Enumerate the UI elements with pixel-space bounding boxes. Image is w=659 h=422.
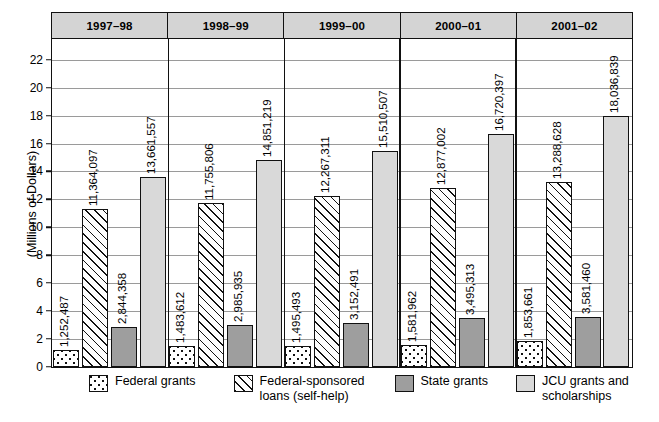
legend-item-3[interactable]: JCU grants and scholarships bbox=[516, 374, 629, 404]
bar-value-label: 16,720,397 bbox=[493, 73, 505, 131]
bar-2001–02-series3[interactable]: 18,036,839 bbox=[603, 116, 629, 367]
y-tick-label-0: 0 bbox=[36, 360, 43, 374]
bar-slot: 1,581,962 bbox=[399, 39, 428, 367]
bar-1997–98-series0[interactable]: 1,252,487 bbox=[53, 350, 79, 367]
bar-1998–99-series0[interactable]: 1,483,612 bbox=[169, 346, 195, 367]
y-tick-label-8: 8 bbox=[36, 248, 43, 262]
bar-value-label: 1,853,661 bbox=[522, 287, 534, 338]
bar-slot: 13,661,557 bbox=[139, 39, 168, 367]
bar-2000–01-series3[interactable]: 16,720,397 bbox=[488, 134, 514, 367]
bar-value-label: 2,844,358 bbox=[116, 273, 128, 324]
bar-slot: 13,288,628 bbox=[544, 39, 573, 367]
bar-slot: 15,510,507 bbox=[370, 39, 399, 367]
year-header-2: 1998–99 bbox=[168, 13, 284, 38]
plot-area: 1,252,48711,364,0972,844,35813,661,5571,… bbox=[51, 39, 633, 368]
plot-inner: 1,252,48711,364,0972,844,35813,661,5571,… bbox=[52, 39, 632, 367]
bar-slot: 11,755,806 bbox=[197, 39, 226, 367]
bar-1999–00-series3[interactable]: 15,510,507 bbox=[372, 151, 398, 367]
legend-label-2: State grants bbox=[421, 374, 488, 389]
legend-swatch-icon-1 bbox=[234, 375, 253, 392]
y-tick-label-10: 10 bbox=[30, 220, 43, 234]
bar-slot: 1,853,661 bbox=[515, 39, 544, 367]
y-tick-label-16: 16 bbox=[30, 137, 43, 151]
bar-group-2001–02: 1,853,66113,288,6283,581,46018,036,839 bbox=[515, 39, 631, 367]
bar-value-label: 1,495,493 bbox=[290, 292, 302, 343]
bar-slot: 3,581,460 bbox=[573, 39, 602, 367]
bar-1999–00-series2[interactable]: 3,152,491 bbox=[343, 323, 369, 367]
bar-slot: 11,364,097 bbox=[81, 39, 110, 367]
bar-value-label: 3,495,313 bbox=[464, 264, 476, 315]
legend-swatch-icon-3 bbox=[516, 375, 535, 392]
bar-slot: 16,720,397 bbox=[486, 39, 515, 367]
bar-value-label: 11,364,097 bbox=[87, 149, 99, 206]
bar-slot: 2,985,935 bbox=[226, 39, 255, 367]
bar-value-label: 15,510,507 bbox=[377, 90, 389, 148]
y-tick-label-4: 4 bbox=[36, 304, 43, 318]
bar-slot: 1,252,487 bbox=[52, 39, 81, 367]
y-tick-label-2: 2 bbox=[36, 332, 43, 346]
bar-1997–98-series1[interactable]: 11,364,097 bbox=[82, 209, 108, 367]
bar-1998–99-series2[interactable]: 2,985,935 bbox=[227, 325, 253, 367]
legend-label-0: Federal grants bbox=[115, 374, 196, 389]
bar-slot: 2,844,358 bbox=[110, 39, 139, 367]
bar-1998–99-series3[interactable]: 14,851,219 bbox=[256, 160, 282, 367]
bar-group-1998–99: 1,483,61211,755,8062,985,93514,851,219 bbox=[168, 39, 284, 367]
bar-1999–00-series0[interactable]: 1,495,493 bbox=[285, 346, 311, 367]
bar-value-label: 13,288,628 bbox=[551, 121, 563, 179]
bar-2000–01-series0[interactable]: 1,581,962 bbox=[401, 345, 427, 367]
y-tick-label-14: 14 bbox=[30, 164, 43, 178]
bar-value-label: 13,661,557 bbox=[145, 116, 157, 174]
bar-2000–01-series1[interactable]: 12,877,002 bbox=[430, 188, 456, 367]
y-tick-label-22: 22 bbox=[30, 53, 43, 67]
bar-slot: 1,495,493 bbox=[284, 39, 313, 367]
bar-2001–02-series0[interactable]: 1,853,661 bbox=[517, 341, 543, 367]
bar-group-2000–01: 1,581,96212,877,0023,495,31316,720,397 bbox=[399, 39, 515, 367]
bar-value-label: 1,483,612 bbox=[174, 292, 186, 343]
legend-item-1[interactable]: Federal-sponsored loans (self-help) bbox=[234, 374, 365, 404]
bar-slot: 12,877,002 bbox=[428, 39, 457, 367]
year-header-1: 1997–98 bbox=[52, 13, 168, 38]
chart-canvas: 1997–981998–991999–002000–012001–02 (Mil… bbox=[0, 0, 659, 422]
bar-2001–02-series1[interactable]: 13,288,628 bbox=[546, 182, 572, 367]
bar-1999–00-series1[interactable]: 12,267,311 bbox=[314, 196, 340, 367]
bar-value-label: 12,877,002 bbox=[435, 127, 447, 185]
year-header-4: 2000–01 bbox=[401, 13, 517, 38]
bar-value-label: 1,252,487 bbox=[58, 295, 70, 346]
bar-value-label: 3,581,460 bbox=[580, 263, 592, 314]
bar-group-1997–98: 1,252,48711,364,0972,844,35813,661,557 bbox=[52, 39, 168, 367]
bar-1997–98-series2[interactable]: 2,844,358 bbox=[111, 327, 137, 367]
bar-2000–01-series2[interactable]: 3,495,313 bbox=[459, 318, 485, 367]
y-axis: (Millions of Dollars) 024681012141618202… bbox=[0, 39, 51, 368]
legend-swatch-icon-0 bbox=[89, 375, 108, 392]
bar-value-label: 1,581,962 bbox=[406, 291, 418, 342]
bar-slot: 12,267,311 bbox=[313, 39, 342, 367]
bar-2001–02-series2[interactable]: 3,581,460 bbox=[575, 317, 601, 367]
y-tick-label-18: 18 bbox=[30, 109, 43, 123]
bar-value-label: 12,267,311 bbox=[319, 136, 331, 193]
year-header-5: 2001–02 bbox=[517, 13, 632, 38]
bar-value-label: 11,755,806 bbox=[203, 143, 215, 200]
bar-value-label: 3,152,491 bbox=[348, 269, 360, 320]
year-header-band: 1997–981998–991999–002000–012001–02 bbox=[51, 12, 633, 39]
y-tick-label-12: 12 bbox=[30, 192, 43, 206]
bar-slot: 3,152,491 bbox=[341, 39, 370, 367]
y-tick-label-6: 6 bbox=[36, 276, 43, 290]
chart-legend: Federal grantsFederal-sponsored loans (s… bbox=[51, 374, 633, 420]
bar-1997–98-series3[interactable]: 13,661,557 bbox=[140, 177, 166, 367]
bar-value-label: 18,036,839 bbox=[608, 55, 620, 113]
legend-label-3: JCU grants and scholarships bbox=[542, 374, 629, 404]
bar-value-label: 2,985,935 bbox=[232, 271, 244, 322]
bar-slot: 3,495,313 bbox=[457, 39, 486, 367]
bar-slot: 14,851,219 bbox=[255, 39, 284, 367]
bar-1998–99-series1[interactable]: 11,755,806 bbox=[198, 203, 224, 367]
bar-value-label: 14,851,219 bbox=[261, 99, 273, 157]
legend-item-0[interactable]: Federal grants bbox=[89, 374, 196, 392]
legend-label-1: Federal-sponsored loans (self-help) bbox=[260, 374, 365, 404]
legend-swatch-icon-2 bbox=[395, 375, 414, 392]
bar-slot: 18,036,839 bbox=[602, 39, 631, 367]
year-header-3: 1999–00 bbox=[284, 13, 400, 38]
bar-slot: 1,483,612 bbox=[168, 39, 197, 367]
y-tick-label-20: 20 bbox=[30, 81, 43, 95]
legend-item-2[interactable]: State grants bbox=[395, 374, 488, 392]
bar-group-1999–00: 1,495,49312,267,3113,152,49115,510,507 bbox=[284, 39, 400, 367]
